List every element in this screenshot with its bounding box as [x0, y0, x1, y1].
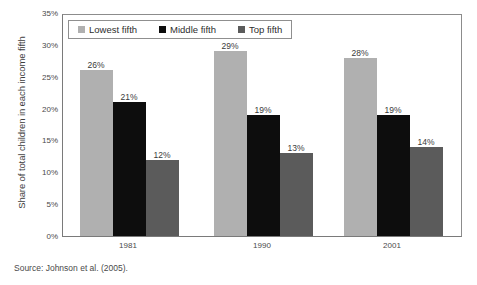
legend-item: Middle fifth — [159, 24, 216, 35]
bar-chart-figure: Share of total children in each income f… — [0, 0, 477, 285]
legend-label: Middle fifth — [170, 24, 216, 35]
plot-area: 26%21%12%29%19%13%28%19%14% Lowest fifth… — [62, 14, 462, 237]
y-axis-tick-labels: 0%5%10%15%20%25%30%35% — [28, 0, 58, 285]
bar — [80, 70, 113, 236]
y-tick-label: 5% — [32, 201, 58, 209]
bar-value-label: 13% — [280, 143, 313, 153]
bar-value-label: 14% — [410, 137, 443, 147]
bar-value-label: 21% — [113, 92, 146, 102]
legend-item: Top fifth — [238, 24, 282, 35]
y-tick-label: 25% — [32, 74, 58, 82]
x-tick-label: 1981 — [98, 241, 158, 250]
legend-swatch-icon — [78, 26, 85, 33]
y-tick-label: 30% — [32, 42, 58, 50]
bar — [344, 58, 377, 236]
bar-value-label: 12% — [146, 150, 179, 160]
legend-swatch-icon — [159, 26, 166, 33]
bar-value-label: 19% — [377, 105, 410, 115]
bar — [146, 160, 179, 236]
legend-item: Lowest fifth — [78, 24, 137, 35]
bar — [247, 115, 280, 236]
bar-value-label: 28% — [344, 48, 377, 58]
x-tick-label: 2001 — [362, 241, 422, 250]
bar — [214, 51, 247, 236]
legend-swatch-icon — [238, 26, 245, 33]
plot-inner: 26%21%12%29%19%13%28%19%14% — [63, 15, 461, 236]
bar — [410, 147, 443, 236]
legend-label: Lowest fifth — [89, 24, 137, 35]
y-tick-label: 35% — [32, 10, 58, 18]
bar — [377, 115, 410, 236]
bar — [280, 153, 313, 236]
bar — [113, 102, 146, 236]
bar-value-label: 19% — [247, 105, 280, 115]
chart-legend: Lowest fifthMiddle fifthTop fifth — [68, 20, 292, 39]
bar-value-label: 29% — [214, 41, 247, 51]
y-tick-label: 15% — [32, 137, 58, 145]
bar-value-label: 26% — [80, 60, 113, 70]
x-tick-label: 1990 — [232, 241, 292, 250]
y-tick-label: 10% — [32, 169, 58, 177]
y-tick-label: 20% — [32, 106, 58, 114]
y-axis-title: Share of total children in each income f… — [16, 5, 27, 241]
y-tick-label: 0% — [32, 233, 58, 241]
source-note: Source: Johnson et al. (2005). — [14, 263, 128, 273]
legend-label: Top fifth — [249, 24, 282, 35]
